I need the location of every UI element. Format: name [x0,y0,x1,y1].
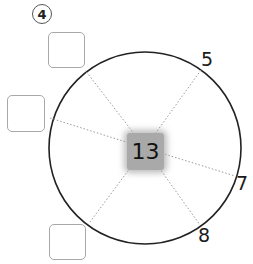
answer-box-lower-left[interactable] [49,224,86,260]
outer-number-lower-right: 8 [198,226,210,245]
problem-number-badge: 4 [32,4,52,24]
number-wheel-diagram [0,0,253,264]
answer-box-upper-left[interactable] [48,32,85,68]
problem-number: 4 [37,7,46,22]
outer-number-right: 7 [236,174,248,193]
center-number-box: 13 [127,133,164,170]
center-number: 13 [132,139,160,164]
outer-number-upper-right: 5 [201,50,213,69]
answer-box-left[interactable] [7,95,45,132]
